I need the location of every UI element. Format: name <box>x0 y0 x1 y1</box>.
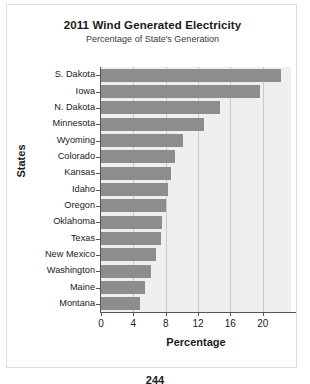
y-tick-mark <box>96 108 100 109</box>
y-tick-mark <box>96 92 100 93</box>
y-tick-mark <box>96 222 100 223</box>
y-tick-mark <box>96 288 100 289</box>
y-tick-mark <box>96 141 100 142</box>
bar <box>101 183 168 196</box>
y-tick-label: Minnesota <box>9 118 95 128</box>
y-tick-mark <box>96 255 100 256</box>
x-tick-label: 12 <box>186 318 210 329</box>
x-tick-label: 0 <box>89 318 113 329</box>
bar-row <box>101 263 291 279</box>
bar <box>101 232 161 245</box>
y-tick-label: S. Dakota <box>9 69 95 79</box>
y-tick-label: Iowa <box>9 86 95 96</box>
bar-row <box>101 198 291 214</box>
y-tick-mark <box>96 124 100 125</box>
x-tick-label: 20 <box>251 318 275 329</box>
bar-row <box>101 214 291 230</box>
x-tick-label: 8 <box>154 318 178 329</box>
y-tick-mark <box>96 206 100 207</box>
bar <box>101 281 145 294</box>
y-tick-label: Oklahoma <box>9 216 95 226</box>
bar-row <box>101 116 291 132</box>
y-tick-label: N. Dakota <box>9 102 95 112</box>
y-tick-label: Colorado <box>9 151 95 161</box>
y-tick-label: Maine <box>9 282 95 292</box>
page-number: 244 <box>0 374 310 384</box>
bar-row <box>101 67 291 83</box>
bar-row <box>101 296 291 312</box>
y-tick-label: Kansas <box>9 167 95 177</box>
bar <box>101 118 204 131</box>
y-tick-mark <box>96 157 100 158</box>
bar-row <box>101 83 291 99</box>
bar <box>101 85 260 98</box>
y-tick-mark <box>96 271 100 272</box>
x-tick-label: 16 <box>218 318 242 329</box>
bar <box>101 248 156 261</box>
bar <box>101 265 151 278</box>
y-tick-label: Washington <box>9 265 95 275</box>
y-tick-label: Oregon <box>9 200 95 210</box>
bar <box>101 150 175 163</box>
plot-area <box>101 67 291 312</box>
bar-row <box>101 279 291 295</box>
x-tick-label: 4 <box>121 318 145 329</box>
x-axis-title: Percentage <box>101 336 291 348</box>
bar-row <box>101 247 291 263</box>
y-tick-mark <box>96 239 100 240</box>
bar-row <box>101 100 291 116</box>
x-tick-mark <box>101 312 102 316</box>
bar <box>101 297 140 310</box>
y-tick-mark <box>96 173 100 174</box>
x-tick-mark <box>230 312 231 316</box>
x-tick-mark <box>198 312 199 316</box>
y-tick-mark <box>96 190 100 191</box>
bar <box>101 69 281 82</box>
bar-series <box>101 67 291 312</box>
chart-card: 2011 Wind Generated Electricity Percenta… <box>6 4 297 368</box>
bar-row <box>101 181 291 197</box>
y-tick-label: New Mexico <box>9 249 95 259</box>
plot-wrapper: States S. DakotaIowaN. DakotaMinnesotaWy… <box>7 5 298 369</box>
y-tick-mark <box>96 304 100 305</box>
bar-row <box>101 230 291 246</box>
bar <box>101 199 166 212</box>
x-tick-mark <box>133 312 134 316</box>
bar-row <box>101 149 291 165</box>
x-tick-mark <box>263 312 264 316</box>
y-tick-label: Wyoming <box>9 135 95 145</box>
y-tick-label: Idaho <box>9 184 95 194</box>
y-tick-mark <box>96 75 100 76</box>
y-tick-label: Texas <box>9 233 95 243</box>
bar <box>101 216 162 229</box>
y-axis-line <box>100 67 101 313</box>
bar <box>101 167 171 180</box>
bar-row <box>101 132 291 148</box>
chart-page: 2011 Wind Generated Electricity Percenta… <box>0 0 310 384</box>
y-tick-label: Montana <box>9 298 95 308</box>
bar <box>101 134 183 147</box>
x-tick-mark <box>166 312 167 316</box>
bar <box>101 101 220 114</box>
bar-row <box>101 165 291 181</box>
